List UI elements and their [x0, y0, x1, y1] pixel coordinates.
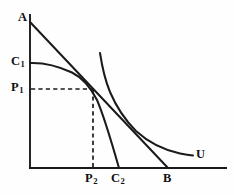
label-p1: P1 — [11, 81, 23, 94]
economics-diagram: A C1 P1 P2 C2 B U — [0, 0, 234, 195]
label-p2: P2 — [85, 172, 97, 185]
label-c2-base: C — [111, 171, 120, 185]
label-c1-subscript: 1 — [21, 59, 26, 69]
label-p1-subscript: 1 — [19, 85, 24, 95]
label-b-text: B — [163, 171, 172, 185]
label-u: U — [196, 148, 205, 161]
label-a: A — [18, 11, 27, 24]
label-u-text: U — [196, 147, 205, 161]
indifference-curve-u — [100, 53, 193, 155]
label-p1-base: P — [11, 80, 19, 94]
label-p2-base: P — [85, 171, 93, 185]
label-c1-base: C — [11, 54, 20, 68]
label-c1: C1 — [11, 55, 25, 68]
diagram-canvas — [0, 0, 234, 195]
label-c2: C2 — [111, 172, 125, 185]
budget-line-ab — [30, 22, 168, 168]
label-b: B — [163, 172, 172, 185]
label-c2-subscript: 2 — [121, 176, 126, 186]
label-p2-subscript: 2 — [93, 176, 98, 186]
label-a-text: A — [18, 10, 27, 24]
